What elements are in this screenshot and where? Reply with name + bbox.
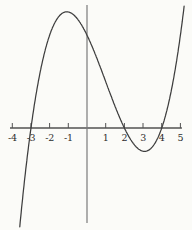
x-axis-ticks bbox=[12, 123, 180, 128]
cubic-function-plot: -4-3-2-112345 bbox=[0, 0, 192, 230]
x-axis-tick-labels: -4-3-2-112345 bbox=[8, 132, 184, 143]
x-tick-label: 5 bbox=[178, 132, 184, 143]
x-tick-label: 3 bbox=[140, 132, 146, 143]
x-tick-label: 1 bbox=[103, 132, 109, 143]
axes bbox=[10, 5, 182, 223]
x-tick-label: -1 bbox=[64, 132, 73, 143]
graph-figure: -4-3-2-112345 bbox=[0, 0, 192, 230]
x-tick-label: -4 bbox=[8, 132, 17, 143]
cubic-curve-path bbox=[20, 6, 184, 227]
cubic-curve bbox=[20, 6, 184, 227]
x-tick-label: -2 bbox=[45, 132, 54, 143]
x-tick-label: -3 bbox=[27, 132, 36, 143]
